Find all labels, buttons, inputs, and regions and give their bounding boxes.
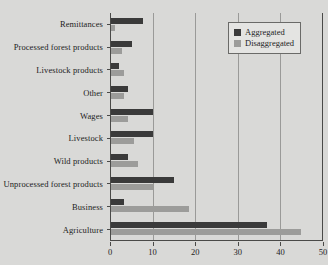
bar-group xyxy=(111,104,322,127)
legend-label: Disaggregated xyxy=(245,38,294,49)
value-tick-mark xyxy=(110,242,111,246)
bar-disaggregated xyxy=(111,229,301,235)
category-label: Wages xyxy=(0,104,107,127)
value-tick-label: 0 xyxy=(108,247,112,257)
bar-disaggregated xyxy=(111,25,115,31)
chart-legend: AggregatedDisaggregated xyxy=(228,22,301,54)
bar-disaggregated xyxy=(111,184,153,190)
category-label: Wild products xyxy=(0,150,107,173)
category-label: Livestock xyxy=(0,127,107,150)
value-tick-mark xyxy=(323,242,324,246)
value-axis: 01020304050 xyxy=(110,242,323,262)
bar-disaggregated xyxy=(111,138,134,144)
value-tick-label: 50 xyxy=(319,247,328,257)
value-tick-mark xyxy=(280,242,281,246)
legend-swatch xyxy=(234,29,241,36)
value-tick-mark xyxy=(195,242,196,246)
bar-aggregated xyxy=(111,199,124,205)
legend-label: Aggregated xyxy=(245,27,285,38)
value-tick-label: 30 xyxy=(234,247,243,257)
bar-group xyxy=(111,149,322,172)
category-label: Remittances xyxy=(0,13,107,36)
category-label: Unprocessed forest products xyxy=(0,173,107,196)
value-tick-label: 10 xyxy=(148,247,157,257)
bar-chart: RemittancesProcessed forest productsLive… xyxy=(0,0,328,265)
legend-item: Disaggregated xyxy=(234,38,294,49)
bar-disaggregated xyxy=(111,116,128,122)
value-tick-mark xyxy=(238,242,239,246)
bar-group xyxy=(111,127,322,150)
bar-group xyxy=(111,172,322,195)
category-label: Processed forest products xyxy=(0,36,107,59)
bar-aggregated xyxy=(111,131,153,137)
bar-aggregated xyxy=(111,177,174,183)
bar-aggregated xyxy=(111,63,119,69)
bar-disaggregated xyxy=(111,161,138,167)
bar-aggregated xyxy=(111,222,267,228)
bar-disaggregated xyxy=(111,93,124,99)
bar-group xyxy=(111,217,322,240)
bar-aggregated xyxy=(111,86,128,92)
bar-aggregated xyxy=(111,109,153,115)
bar-aggregated xyxy=(111,18,143,24)
bar-group xyxy=(111,195,322,218)
bar-disaggregated xyxy=(111,48,122,54)
bar-aggregated xyxy=(111,41,132,47)
bar-disaggregated xyxy=(111,70,124,76)
category-label: Business xyxy=(0,195,107,218)
category-label: Other xyxy=(0,81,107,104)
value-tick-label: 40 xyxy=(276,247,285,257)
bar-disaggregated xyxy=(111,206,189,212)
category-axis-labels: RemittancesProcessed forest productsLive… xyxy=(0,13,107,241)
value-tick-label: 20 xyxy=(191,247,200,257)
bar-group xyxy=(111,58,322,81)
category-label: Agriculture xyxy=(0,218,107,241)
legend-swatch xyxy=(234,40,241,47)
value-tick-mark xyxy=(153,242,154,246)
bar-group xyxy=(111,81,322,104)
legend-item: Aggregated xyxy=(234,27,294,38)
bar-aggregated xyxy=(111,154,128,160)
category-label: Livestock products xyxy=(0,59,107,82)
